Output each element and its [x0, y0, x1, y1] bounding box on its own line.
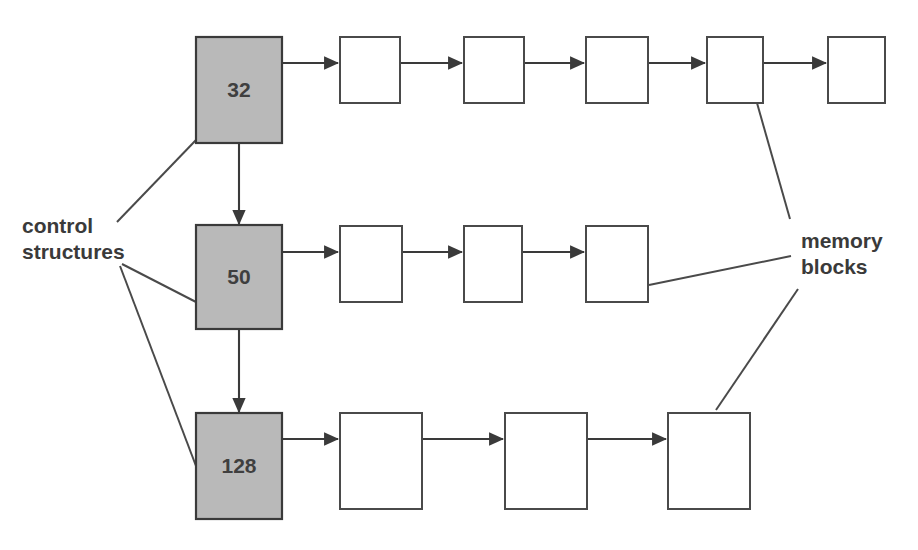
memory-block[interactable]	[340, 37, 400, 103]
memory-block[interactable]	[464, 226, 522, 302]
control-structure-label-32: 32	[227, 78, 250, 101]
label-control-structures: control structures	[22, 213, 125, 264]
control-structure-group: 3250128	[196, 37, 282, 519]
memory-block[interactable]	[707, 37, 763, 103]
control-structure-label-128: 128	[221, 454, 256, 477]
leader-line-memory-blocks-to-mid-row	[649, 256, 791, 285]
memory-block[interactable]	[340, 413, 422, 509]
memory-block[interactable]	[505, 413, 587, 509]
memory-block[interactable]	[464, 37, 524, 103]
leader-line-control-structures-to-32	[117, 140, 196, 222]
control-structure-label-50: 50	[227, 265, 250, 288]
leader-line-control-structures-to-50	[122, 264, 196, 302]
memory-block[interactable]	[340, 226, 402, 302]
memory-block[interactable]	[668, 413, 750, 509]
label-control-structures-line2: structures	[22, 239, 125, 265]
diagram-canvas: 3250128	[0, 0, 918, 550]
memory-block[interactable]	[586, 226, 648, 302]
leader-line-memory-blocks-to-bot-row	[716, 289, 798, 410]
flow-line-group	[239, 63, 826, 439]
label-memory-blocks: memory blocks	[801, 228, 883, 279]
memory-block[interactable]	[828, 37, 885, 103]
label-control-structures-line1: control	[22, 213, 125, 239]
memory-block[interactable]	[586, 37, 648, 103]
label-memory-blocks-line1: memory	[801, 228, 883, 254]
leader-line-memory-blocks-to-top-row	[757, 103, 790, 219]
label-memory-blocks-line2: blocks	[801, 254, 883, 280]
diagram-root: 3250128 control structures memory blocks	[0, 0, 918, 550]
